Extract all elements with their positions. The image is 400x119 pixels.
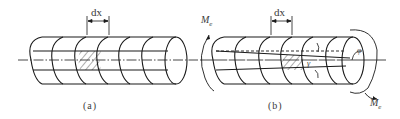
end-face-b (342, 37, 364, 84)
phi-label: φ (357, 46, 361, 55)
dx-label-a: dx (91, 6, 102, 18)
dx-dimension-a (87, 16, 109, 35)
end-face-a (165, 37, 187, 84)
moment-label-left: Me (201, 14, 212, 28)
caption-a: (a) (83, 100, 97, 111)
dx-label-b: dx (274, 6, 285, 18)
dx-dimension-b (271, 16, 292, 35)
gamma-label: γ (307, 59, 310, 68)
moment-label-right: Me (370, 97, 381, 111)
panel-b-shaft (200, 30, 386, 100)
torsion-diagram (0, 0, 400, 119)
moment-subscript: e (378, 103, 381, 111)
panel-a-shaft (18, 37, 198, 84)
caption-b: (b) (268, 100, 283, 111)
moment-subscript: e (209, 20, 212, 28)
torque-arrow-left (201, 35, 214, 91)
